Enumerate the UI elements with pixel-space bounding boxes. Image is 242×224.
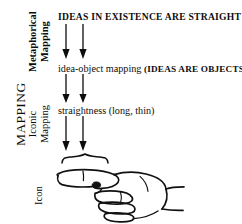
level-label-metaphorical-mapping: Metaphorical Mapping (27, 11, 51, 72)
diagram-canvas: MAPPING Metaphorical Mapping Iconic Mapp… (0, 0, 242, 224)
axis-label-mapping: MAPPING (14, 82, 28, 146)
double-down-arrow-icon (58, 74, 100, 104)
brace-icon (62, 154, 108, 163)
row-text-idea-object-mapping: idea-object mapping (IDEAS ARE OBJECTS) (58, 64, 242, 74)
double-down-arrow-icon (58, 22, 100, 60)
row-mid-caps: (IDEAS ARE OBJECTS) (144, 64, 242, 74)
level-label-icon: Icon (34, 186, 45, 205)
double-down-arrow-icon (58, 116, 100, 152)
level-label-iconic-mapping: Iconic Mapping (27, 105, 51, 143)
row-text-ideas-in-existence-are-straight: IDEAS IN EXISTENCE ARE STRAIGHT (58, 12, 241, 22)
level-label-iconic-line2: Mapping (39, 105, 51, 143)
level-label-iconic-line1: Iconic (27, 105, 39, 143)
pointing-hand-illustration (54, 149, 188, 224)
row-text-straightness: straightness (long, thin) (58, 106, 155, 116)
pointing-hand-icon (54, 149, 188, 224)
row-mid-lead: idea-object mapping (58, 63, 144, 74)
level-label-metaphorical-line1: Metaphorical (27, 11, 39, 72)
arrow-pair-metaphorical-to-idea-object (58, 22, 100, 60)
arrow-pair-straightness-to-icon (58, 116, 100, 152)
level-label-metaphorical-line2: Mapping (39, 11, 51, 72)
arrow-pair-idea-object-to-straightness (58, 74, 100, 104)
